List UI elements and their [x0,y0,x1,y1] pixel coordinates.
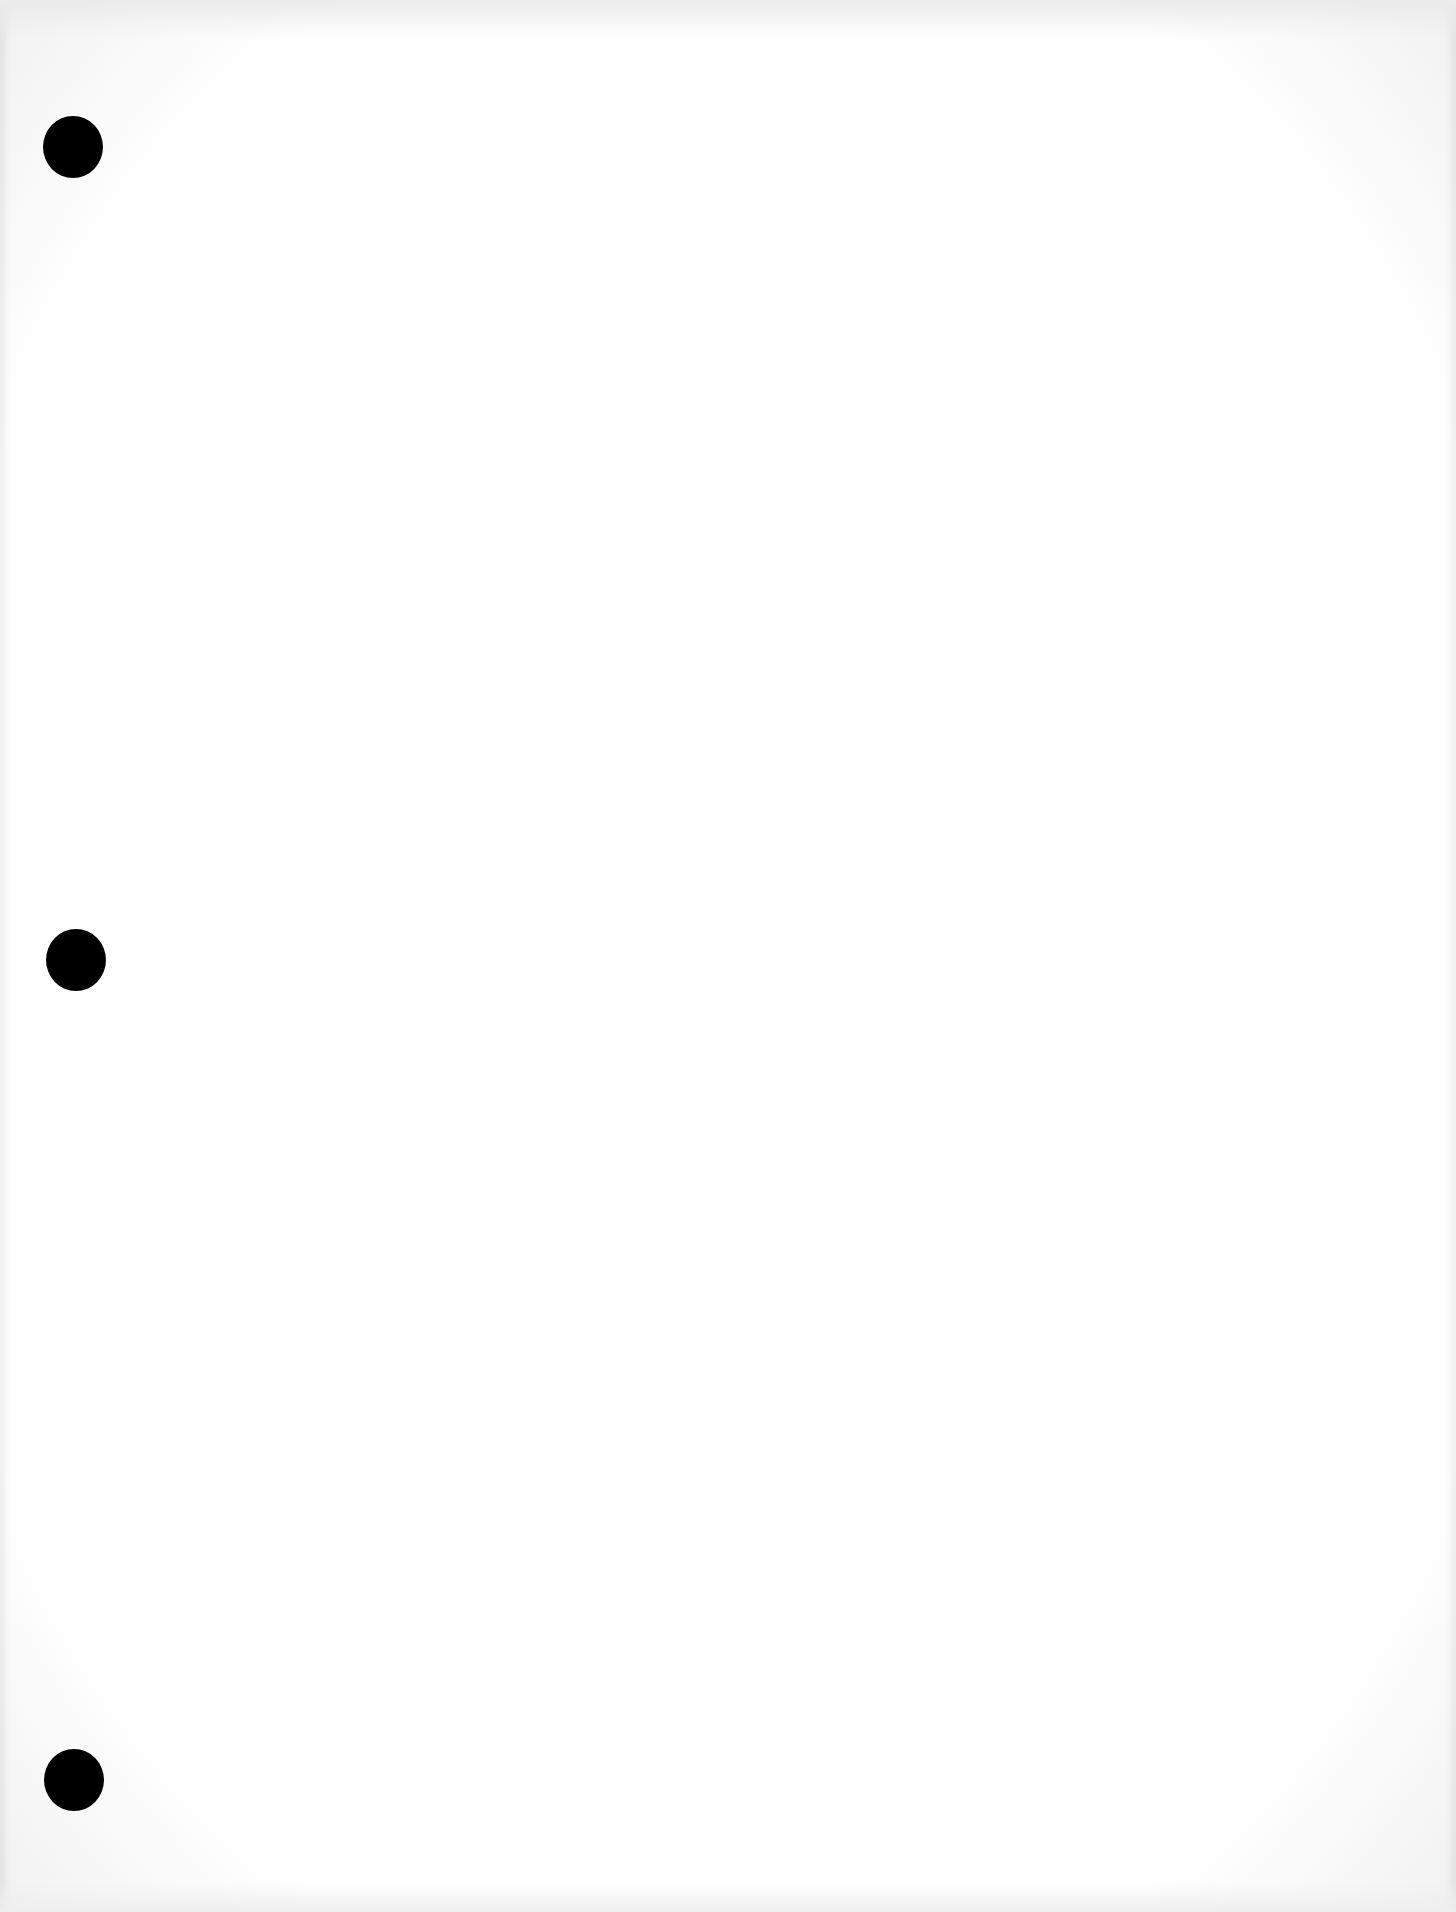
punch-hole [43,116,103,178]
scan-shadow-bottom [0,1882,1456,1912]
punch-hole [44,1749,104,1811]
blank-page [0,0,1456,1912]
scan-shadow-top [0,0,1456,40]
punch-hole [46,929,106,991]
